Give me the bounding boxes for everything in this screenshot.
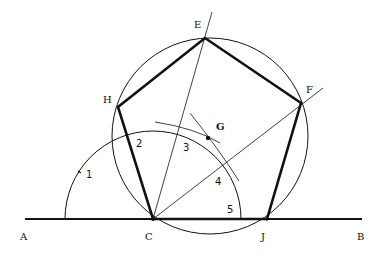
label-h: H bbox=[103, 94, 112, 105]
label-c: C bbox=[145, 231, 153, 242]
division-label-2: 2 bbox=[136, 138, 142, 149]
division-label-3: 3 bbox=[183, 142, 189, 153]
label-a: A bbox=[19, 231, 28, 242]
vertex-c bbox=[151, 217, 155, 221]
regular-pentagon bbox=[118, 38, 301, 219]
circumscribed-circle bbox=[112, 38, 308, 234]
division-label-1: 1 bbox=[86, 169, 92, 180]
division-label-4: 4 bbox=[215, 176, 221, 187]
division-label-5: 5 bbox=[227, 204, 233, 215]
label-b: B bbox=[357, 231, 364, 242]
center-point-g bbox=[206, 136, 210, 140]
bisector-arc-2 bbox=[190, 113, 239, 181]
pentagon-construction-diagram: A C J B E F H G 1 2 3 4 5 bbox=[0, 0, 391, 253]
label-j: J bbox=[260, 231, 265, 242]
construction-line-cf bbox=[153, 88, 323, 219]
construction-line-ce bbox=[153, 12, 212, 219]
label-f: F bbox=[306, 84, 313, 95]
label-e: E bbox=[194, 19, 201, 30]
label-g: G bbox=[216, 121, 225, 132]
vertex-j bbox=[265, 217, 268, 220]
